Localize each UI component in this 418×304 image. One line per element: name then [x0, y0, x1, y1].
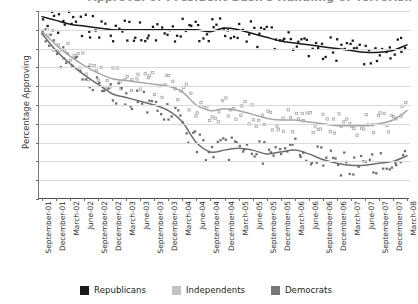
data-point — [98, 36, 100, 38]
data-point — [363, 128, 365, 130]
x-axis-tick-label: June-05 — [255, 201, 264, 229]
data-point — [335, 60, 337, 62]
legend-item[interactable]: Democrats — [271, 285, 332, 295]
data-point — [219, 139, 221, 141]
data-point — [312, 131, 314, 133]
data-point — [227, 115, 229, 117]
data-point — [197, 24, 199, 26]
y-axis-tick — [36, 124, 39, 125]
data-point — [206, 106, 208, 108]
data-point — [391, 166, 393, 168]
data-point — [176, 35, 178, 37]
data-point — [290, 38, 292, 40]
data-point — [332, 51, 334, 53]
data-point — [383, 112, 385, 114]
legend-swatch-icon — [80, 286, 89, 295]
data-point — [131, 108, 133, 110]
data-point — [319, 128, 321, 130]
data-point — [252, 119, 254, 121]
data-point — [148, 34, 150, 36]
data-point — [215, 24, 217, 26]
data-point — [314, 125, 316, 127]
data-point — [171, 115, 173, 117]
data-point — [110, 35, 112, 37]
data-point — [250, 20, 252, 22]
x-axis-tick-label: March-05 — [241, 201, 250, 236]
data-point — [224, 35, 226, 37]
data-point — [271, 129, 273, 131]
gridline — [39, 11, 410, 12]
data-point — [231, 137, 233, 139]
data-point — [160, 113, 162, 115]
data-point — [211, 116, 213, 118]
data-point — [400, 51, 402, 53]
data-point — [309, 112, 311, 114]
data-point — [45, 40, 47, 42]
data-point — [96, 76, 98, 78]
data-point — [217, 121, 219, 123]
data-point — [360, 155, 362, 157]
data-point — [121, 87, 123, 89]
data-point — [152, 71, 154, 73]
data-point — [382, 167, 384, 169]
data-point — [80, 16, 82, 18]
data-point — [140, 39, 142, 41]
data-point — [166, 34, 168, 36]
data-point — [89, 36, 91, 38]
data-point — [392, 115, 394, 117]
data-point — [277, 129, 279, 131]
data-point — [65, 62, 67, 64]
data-point — [58, 13, 60, 15]
data-point — [404, 150, 406, 152]
data-point — [303, 37, 305, 39]
data-point — [296, 45, 298, 47]
data-point — [225, 139, 227, 141]
data-point — [208, 40, 210, 42]
data-point — [50, 34, 52, 36]
legend-item[interactable]: Independents — [172, 285, 245, 295]
data-point — [315, 42, 317, 44]
data-point — [211, 18, 213, 20]
data-point — [248, 33, 250, 35]
x-axis-tick-label: June-07 — [367, 201, 376, 229]
y-axis-tick — [36, 30, 39, 31]
data-point — [137, 73, 139, 75]
data-point — [300, 38, 302, 40]
data-point — [190, 25, 192, 27]
trend-line — [42, 17, 407, 53]
chart-title-strip: Approval of President Bush's Handling of… — [0, 0, 412, 7]
data-point — [148, 75, 150, 77]
data-point — [240, 114, 242, 116]
data-point — [283, 38, 285, 40]
data-point — [334, 157, 336, 159]
data-point — [88, 31, 90, 33]
data-point — [284, 147, 286, 149]
data-point — [144, 73, 146, 75]
data-point — [365, 45, 367, 47]
data-point — [287, 109, 289, 111]
plot-area: 0102030405060708090100 — [38, 11, 409, 199]
data-point — [389, 57, 391, 59]
data-point — [112, 99, 114, 101]
x-axis-tick-label: December-06 — [339, 201, 348, 251]
x-axis-tick-label: March-08 — [409, 201, 418, 236]
data-point — [363, 63, 365, 65]
data-point — [272, 154, 274, 156]
data-point — [92, 89, 94, 91]
data-point — [372, 131, 374, 133]
data-point — [379, 54, 381, 56]
y-axis-tick — [36, 67, 39, 68]
data-point — [212, 26, 214, 28]
data-point — [397, 38, 399, 40]
data-point — [181, 18, 183, 20]
data-point — [146, 37, 148, 39]
legend-item[interactable]: Republicans — [80, 285, 146, 295]
data-point — [200, 102, 202, 104]
y-axis-tick — [36, 11, 39, 12]
data-point — [151, 100, 153, 102]
x-axis-tick-label: December-05 — [283, 201, 292, 251]
data-point — [322, 113, 324, 115]
data-point — [196, 112, 198, 114]
data-point — [163, 118, 165, 120]
